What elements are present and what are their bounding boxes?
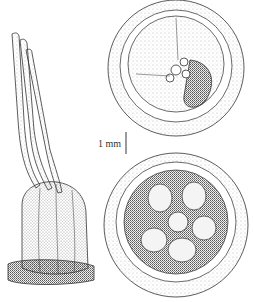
style-2 — [20, 39, 52, 190]
basal-ring — [8, 260, 94, 285]
top-view-lower — [104, 153, 248, 297]
scale-bar: 1 mm — [98, 132, 127, 154]
top-view-upper — [108, 0, 244, 136]
scale-bar-line — [125, 132, 127, 154]
side-view-fruit — [8, 33, 94, 285]
scale-bar-label: 1 mm — [98, 138, 121, 149]
